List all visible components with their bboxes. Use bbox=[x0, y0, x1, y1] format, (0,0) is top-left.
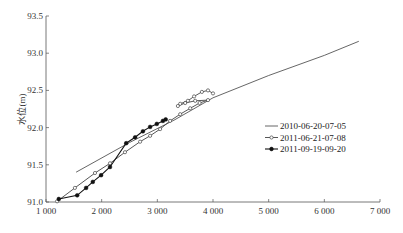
filled-circle-marker-icon bbox=[57, 197, 61, 201]
x-tick-label: 5 000 bbox=[259, 206, 280, 216]
filled-circle-marker-icon bbox=[270, 147, 274, 151]
open-circle-marker-icon bbox=[149, 134, 152, 137]
series-2011-06-21-07-08 bbox=[56, 89, 215, 203]
open-circle-marker-icon bbox=[93, 171, 96, 174]
open-circle-marker-icon bbox=[179, 102, 182, 105]
y-tick-label: 91.5 bbox=[27, 160, 43, 170]
open-circle-marker-icon bbox=[200, 90, 203, 93]
legend-label: 2011-06-21-07-08 bbox=[280, 133, 346, 143]
open-circle-marker-icon bbox=[211, 92, 214, 95]
open-circle-marker-icon bbox=[169, 119, 172, 122]
x-tick-label: 4 000 bbox=[203, 206, 224, 216]
filled-circle-marker-icon bbox=[75, 193, 79, 197]
filled-circle-marker-icon bbox=[155, 122, 159, 126]
filled-circle-marker-icon bbox=[91, 180, 95, 184]
open-circle-marker-icon bbox=[206, 89, 209, 92]
filled-circle-marker-icon bbox=[164, 118, 168, 122]
y-tick-label: 93.5 bbox=[27, 11, 43, 21]
legend-label: 2010-06-20-07-05 bbox=[280, 121, 346, 131]
filled-circle-marker-icon bbox=[141, 129, 145, 133]
filled-circle-marker-icon bbox=[108, 165, 112, 169]
axes: 91.091.592.092.593.093.5 1 0002 0003 000… bbox=[16, 11, 391, 216]
legend-item-2011-09: 2011-09-19-09-20 bbox=[265, 144, 346, 154]
legend-label: 2011-09-19-09-20 bbox=[280, 144, 346, 154]
legend-item-2011-06: 2011-06-21-07-08 bbox=[265, 133, 346, 143]
filled-circle-marker-icon bbox=[84, 186, 88, 190]
y-tick-label: 93.0 bbox=[27, 48, 43, 58]
y-tick-label: 92.0 bbox=[27, 123, 43, 133]
x-tick-label: 1 000 bbox=[36, 206, 57, 216]
filled-circle-marker-icon bbox=[133, 135, 137, 139]
open-circle-marker-icon bbox=[186, 99, 189, 102]
y-axis-title: 水位(m) bbox=[16, 94, 27, 125]
open-circle-marker-icon bbox=[206, 99, 209, 102]
open-circle-marker-icon bbox=[139, 140, 142, 143]
x-tick-label: 6 000 bbox=[314, 206, 335, 216]
open-circle-marker-icon bbox=[73, 186, 76, 189]
open-circle-marker-icon bbox=[194, 99, 197, 102]
open-circle-marker-icon bbox=[179, 113, 182, 116]
filled-circle-marker-icon bbox=[124, 141, 128, 145]
legend: 2010-06-20-07-05 2011-06-21-07-08 2011-0… bbox=[265, 121, 346, 154]
open-circle-marker-icon bbox=[193, 95, 196, 98]
x-tick-label: 3 000 bbox=[147, 206, 168, 216]
filled-circle-marker-icon bbox=[99, 173, 103, 177]
open-circle-marker-icon bbox=[159, 128, 162, 131]
open-circle-marker-icon bbox=[189, 107, 192, 110]
water-level-chart: 91.091.592.092.593.093.5 1 0002 0003 000… bbox=[0, 0, 403, 233]
y-tick-label: 92.5 bbox=[27, 85, 43, 95]
filled-circle-marker-icon bbox=[148, 125, 152, 129]
x-tick-label: 2 000 bbox=[92, 206, 113, 216]
open-circle-marker-icon bbox=[270, 136, 273, 139]
open-circle-marker-icon bbox=[123, 151, 126, 154]
open-circle-marker-icon bbox=[198, 101, 201, 104]
x-ticks: 1 0002 0003 0004 0005 0006 0007 000 bbox=[36, 199, 391, 216]
x-tick-label: 7 000 bbox=[370, 206, 391, 216]
legend-item-2010: 2010-06-20-07-05 bbox=[265, 121, 346, 131]
